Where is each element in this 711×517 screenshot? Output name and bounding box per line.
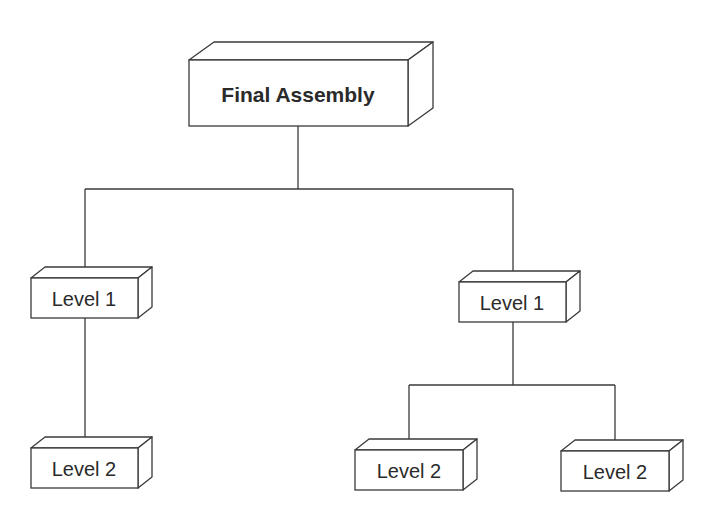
node-label-final-assembly: Final Assembly — [221, 83, 375, 106]
node-label-level2-right: Level 2 — [583, 461, 648, 483]
node-level2-middle: Level 2 — [355, 439, 477, 490]
node-label-level1-right: Level 1 — [480, 292, 545, 314]
box-top-face — [31, 437, 152, 448]
node-label-level2-middle: Level 2 — [377, 460, 442, 482]
box-top-face — [31, 267, 152, 278]
node-level2-left: Level 2 — [31, 437, 152, 488]
box-top-face — [355, 439, 477, 450]
node-level2-right: Level 2 — [561, 440, 683, 491]
box-top-face — [189, 42, 433, 60]
node-level1-right: Level 1 — [459, 271, 580, 322]
box-top-face — [459, 271, 580, 282]
node-final-assembly: Final Assembly — [189, 42, 433, 126]
node-level1-left: Level 1 — [31, 267, 152, 318]
assembly-hierarchy-diagram: Final Assembly Level 1 Level 1 Level 2 L… — [0, 0, 711, 517]
node-label-level1-left: Level 1 — [52, 288, 117, 310]
node-label-level2-left: Level 2 — [52, 458, 117, 480]
box-top-face — [561, 440, 683, 451]
